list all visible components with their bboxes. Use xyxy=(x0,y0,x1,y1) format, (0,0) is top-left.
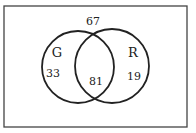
set-r-label: R xyxy=(128,45,139,60)
intersection-count: 81 xyxy=(89,75,103,88)
set-g-label: G xyxy=(52,45,62,60)
outside-count: 67 xyxy=(86,15,100,28)
set-r-only-count: 19 xyxy=(127,70,141,83)
set-g-only-count: 33 xyxy=(46,67,60,80)
venn-diagram: 67 G R 33 81 19 xyxy=(0,0,196,133)
